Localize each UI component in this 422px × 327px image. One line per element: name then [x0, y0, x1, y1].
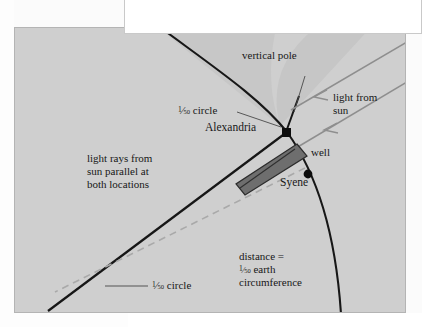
- label-light-rays-note: light rays from sun parallel at both loc…: [87, 152, 152, 191]
- fraction-bottom: 1⁄50: [152, 279, 164, 291]
- top-right-white-panel: [124, 0, 422, 34]
- distance-line-2: 1⁄50 earth: [239, 263, 302, 276]
- label-light-from-sun: light from sun: [333, 91, 377, 117]
- fraction-top: 1⁄50: [178, 104, 190, 116]
- light-rays-line-1: light rays from: [87, 152, 152, 165]
- label-alexandria: Alexandria: [205, 121, 256, 135]
- light-rays-line-3: both locations: [87, 178, 152, 191]
- page-canvas: vertical pole 1⁄50 circle Alexandria lig…: [0, 0, 422, 327]
- label-fifty-circle-bottom: 1⁄50 circle: [152, 279, 191, 292]
- label-syene: Syene: [280, 176, 308, 190]
- diagram-vector: [15, 28, 406, 313]
- light-from-sun-line-2: sun: [333, 104, 377, 117]
- fraction-distance: 1⁄50: [239, 265, 251, 275]
- label-vertical-pole: vertical pole: [242, 49, 297, 62]
- diagram-figure: vertical pole 1⁄50 circle Alexandria lig…: [14, 27, 406, 313]
- label-well: well: [311, 146, 330, 159]
- left-margin-strip: [0, 0, 14, 327]
- distance-line-3: circumference: [239, 276, 302, 289]
- alexandria-marker-dot-icon: [282, 128, 291, 137]
- distance-line-1: distance =: [239, 250, 302, 263]
- light-rays-line-2: sun parallel at: [87, 165, 152, 178]
- bottom-right-white-panel: [128, 313, 422, 327]
- label-distance-note: distance = 1⁄50 earth circumference: [239, 250, 302, 289]
- label-fifty-circle-top: 1⁄50 circle: [178, 104, 217, 117]
- light-from-sun-line-1: light from: [333, 91, 377, 104]
